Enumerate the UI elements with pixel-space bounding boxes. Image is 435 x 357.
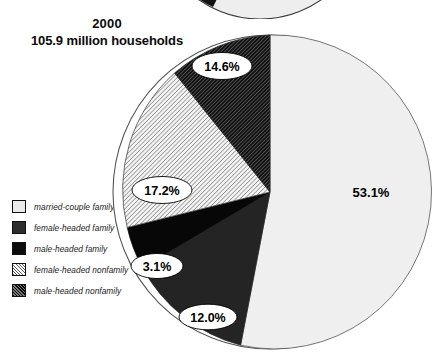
pie-label-female-headed-family: 12.0% — [190, 311, 225, 325]
pie-label-male-headed-family-group: 3.1% — [131, 254, 183, 279]
pie-chart-page: 2000 105.9 million households — [0, 0, 435, 357]
pie-label-female-headed-nonfamily-group: 17.2% — [132, 177, 192, 204]
pie-label-male-headed-family: 3.1% — [143, 260, 172, 274]
pie-label-male-headed-nonfamily-group: 14.6% — [192, 53, 252, 80]
main-pie-chart: 53.1% 14.6% 17.2% 3.1% 12.0% — [0, 0, 435, 357]
pie-label-female-headed-family-group: 12.0% — [179, 304, 237, 330]
pie-label-male-headed-nonfamily: 14.6% — [204, 60, 239, 74]
pie-label-married-couple-family: 53.1% — [353, 185, 390, 200]
pie-label-female-headed-nonfamily: 17.2% — [144, 184, 179, 198]
